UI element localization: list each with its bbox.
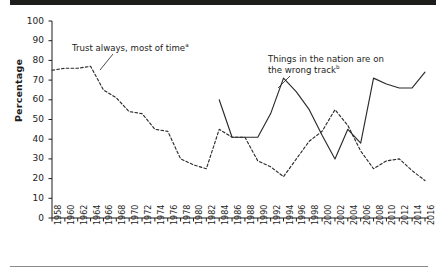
chart-figure: Percentage 1009080706050403020100 195819… [0,0,436,274]
annotation-wrong-track-line1: Things in the nation are on [268,54,384,65]
plot-area [0,0,436,274]
data-series [52,66,425,180]
annotation-wrong-track-line2: the wrong track [268,65,336,75]
annotation-trust: Trust always, most of timea [72,43,189,54]
series-line-0 [52,66,425,180]
annotation-trust-text: Trust always, most of time [72,43,185,53]
leader-line-trust [100,54,113,70]
leader-line-wrong-track [278,76,290,88]
annotation-wrong-track: Things in the nation are on the wrong tr… [268,54,384,76]
annotation-wrong-track-superscript: b [336,64,340,70]
annotation-trust-superscript: a [185,42,188,48]
annotation-leader-lines [100,54,290,88]
annotation-wrong-track-line2-wrap: the wrong trackb [268,65,384,76]
bottom-divider [10,266,428,267]
